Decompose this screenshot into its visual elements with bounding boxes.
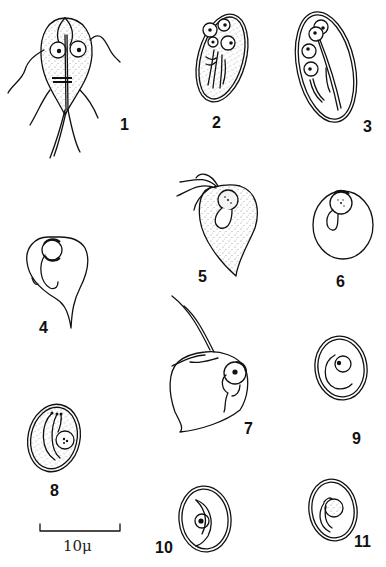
figure-label-11: 11 — [354, 533, 371, 550]
figure-label-3: 3 — [363, 118, 372, 135]
figure-5-trophozoite — [177, 174, 257, 276]
figure-2-cyst — [187, 8, 257, 107]
figure-8-cyst — [21, 399, 86, 476]
protozoa-plate: 1 2 3 4 — [0, 0, 386, 567]
figure-label-9: 9 — [352, 430, 361, 447]
figure-6-round-form — [313, 191, 373, 259]
figure-label-1: 1 — [120, 116, 129, 133]
scale-bar — [40, 524, 120, 531]
figure-1-trophozoite — [8, 18, 120, 158]
figure-9-cyst — [311, 333, 371, 404]
figure-11-cyst — [305, 476, 361, 544]
figure-10-cyst — [176, 484, 234, 554]
figure-4-trophozoite — [27, 237, 88, 328]
figure-label-8: 8 — [50, 482, 59, 499]
figure-label-6: 6 — [336, 273, 345, 290]
scale-bar-label: 10μ — [63, 537, 92, 555]
figure-3-cyst — [286, 6, 366, 128]
figure-label-7: 7 — [244, 420, 253, 437]
figure-label-2: 2 — [212, 114, 221, 131]
figure-label-10: 10 — [155, 539, 173, 556]
figure-label-4: 4 — [39, 319, 48, 336]
figure-label-5: 5 — [198, 268, 207, 285]
figure-7-trophozoite — [170, 296, 248, 432]
